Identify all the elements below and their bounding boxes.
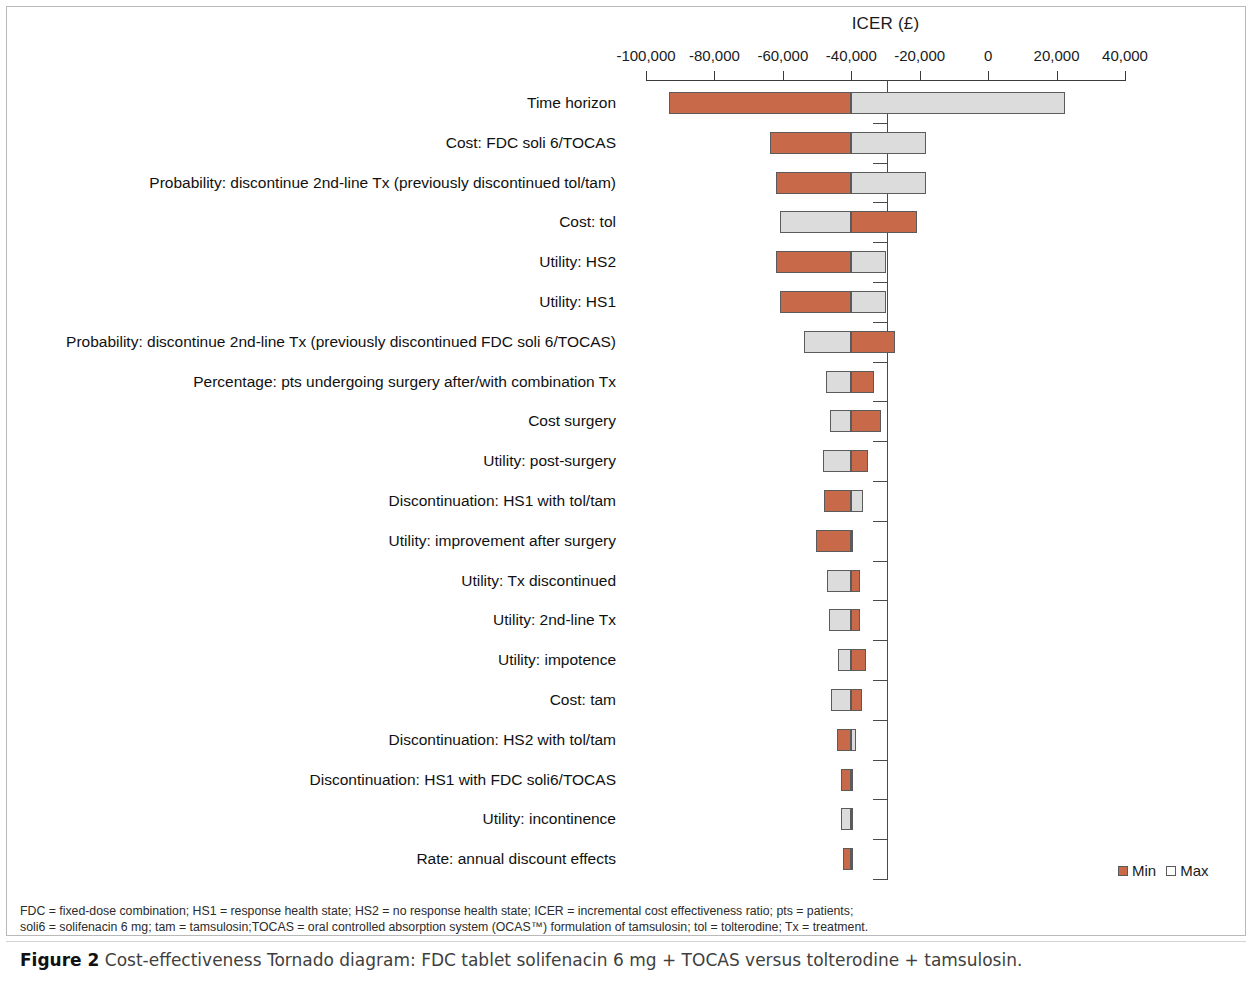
tornado-row: Cost: tol <box>0 202 1252 242</box>
legend-swatch-min-icon <box>1118 866 1128 876</box>
tornado-bar-max <box>826 371 852 393</box>
tornado-chart: ICER (£) -100,000-80,000-60,000-40,000-2… <box>0 0 1252 900</box>
tornado-bar-max <box>851 848 853 870</box>
tornado-bar-max <box>838 649 851 671</box>
tornado-row-label: Utility: post-surgery <box>483 452 616 470</box>
tornado-row-label: Rate: annual discount effects <box>416 850 616 868</box>
x-tick-label: -20,000 <box>894 47 945 64</box>
figure-number: Figure 2 <box>20 950 99 970</box>
x-axis-tick-labels: -100,000-80,000-60,000-40,000-20,000020,… <box>0 47 1252 67</box>
tornado-bar-min <box>851 570 860 592</box>
x-tick-label: -60,000 <box>757 47 808 64</box>
tornado-bar-min <box>851 410 881 432</box>
tornado-row-label: Utility: improvement after surgery <box>389 532 616 550</box>
tornado-bar-min <box>776 172 852 194</box>
tornado-row-label: Discontinuation: HS1 with tol/tam <box>389 492 616 510</box>
tornado-row: Utility: 2nd-line Tx <box>0 600 1252 640</box>
tornado-bar-min <box>851 450 867 472</box>
legend-item-max: Max <box>1166 862 1208 879</box>
tornado-row: Cost: tam <box>0 680 1252 720</box>
tornado-bar-min <box>776 251 851 273</box>
tornado-row-label: Discontinuation: HS2 with tol/tam <box>389 731 616 749</box>
tornado-row-label: Cost surgery <box>528 412 616 430</box>
x-tick-label: 20,000 <box>1034 47 1080 64</box>
tornado-row: Discontinuation: HS1 with tol/tam <box>0 481 1252 521</box>
tornado-row: Probability: discontinue 2nd-line Tx (pr… <box>0 322 1252 362</box>
tornado-row: Discontinuation: HS1 with FDC soli6/TOCA… <box>0 760 1252 800</box>
tornado-bar-max <box>780 211 852 233</box>
figure-root: ICER (£) -100,000-80,000-60,000-40,000-2… <box>0 0 1252 987</box>
tornado-bar-min <box>837 729 852 751</box>
tornado-bar-max <box>851 291 886 313</box>
tornado-bar-max <box>851 490 863 512</box>
x-tick-mark <box>920 71 921 81</box>
tornado-row: Probability: discontinue 2nd-line Tx (pr… <box>0 163 1252 203</box>
tornado-row-label: Utility: Tx discontinued <box>461 572 616 590</box>
tornado-bar-max <box>851 132 926 154</box>
x-tick-mark <box>646 71 647 81</box>
tornado-row-label: Probability: discontinue 2nd-line Tx (pr… <box>149 174 616 192</box>
legend-label-max: Max <box>1180 862 1208 879</box>
x-axis-line <box>646 80 1125 81</box>
tornado-bar-max <box>851 729 855 751</box>
tornado-bar-min <box>669 92 851 114</box>
chart-legend: Min Max <box>1118 862 1209 879</box>
x-tick-mark <box>1057 71 1058 81</box>
tornado-bar-max <box>804 331 851 353</box>
tornado-bar-min <box>851 331 895 353</box>
tornado-bar-max <box>831 689 851 711</box>
tornado-row-label: Time horizon <box>527 94 616 112</box>
tornado-bar-min <box>780 291 852 313</box>
tornado-row: Utility: HS2 <box>0 242 1252 282</box>
tornado-bar-min <box>851 211 916 233</box>
tornado-row-label: Utility: impotence <box>498 651 616 669</box>
tornado-row-label: Cost: FDC soli 6/TOCAS <box>446 134 616 152</box>
tornado-row-label: Discontinuation: HS1 with FDC soli6/TOCA… <box>310 771 616 789</box>
tornado-bar-min <box>770 132 851 154</box>
figure-caption: Figure 2 Cost-effectiveness Tornado diag… <box>20 950 1230 970</box>
tornado-row-label: Utility: 2nd-line Tx <box>493 611 616 629</box>
tornado-row: Cost: FDC soli 6/TOCAS <box>0 123 1252 163</box>
figure-caption-text: Cost-effectiveness Tornado diagram: FDC … <box>105 950 1023 970</box>
x-tick-mark <box>851 71 852 81</box>
tornado-bar-max <box>851 172 926 194</box>
tornado-bar-min <box>816 530 851 552</box>
tornado-bar-min <box>851 609 860 631</box>
tornado-bar-max <box>841 808 851 830</box>
tornado-row: Time horizon <box>0 83 1252 123</box>
tornado-row: Utility: post-surgery <box>0 441 1252 481</box>
footnote-line-2: soli6 = solifenacin 6 mg; tam = tamsulos… <box>20 919 1230 935</box>
x-tick-label: -40,000 <box>826 47 877 64</box>
tornado-row-label: Cost: tam <box>550 691 616 709</box>
tornado-row-label: Utility: HS2 <box>539 253 616 271</box>
caption-divider <box>6 941 1246 942</box>
x-tick-label: 0 <box>984 47 992 64</box>
tornado-bar-max <box>851 530 853 552</box>
tornado-bar-max <box>829 609 851 631</box>
tornado-bar-max <box>830 410 852 432</box>
tornado-bar-max <box>851 251 886 273</box>
tornado-bar-min <box>843 848 851 870</box>
tornado-bar-max <box>851 92 1064 114</box>
x-tick-mark <box>988 71 989 81</box>
tornado-bar-min <box>851 808 853 830</box>
tornado-row-label: Utility: incontinence <box>482 810 616 828</box>
tornado-row: Utility: impotence <box>0 640 1252 680</box>
tornado-bar-max <box>823 450 851 472</box>
x-tick-label: -100,000 <box>616 47 675 64</box>
tornado-bar-max <box>851 769 853 791</box>
tornado-bar-min <box>824 490 852 512</box>
x-tick-mark <box>714 71 715 81</box>
tornado-row: Rate: annual discount effects <box>0 839 1252 879</box>
legend-item-min: Min <box>1118 862 1156 879</box>
tornado-row-label: Utility: HS1 <box>539 293 616 311</box>
legend-label-min: Min <box>1132 862 1156 879</box>
tornado-row: Utility: HS1 <box>0 282 1252 322</box>
tornado-row-label: Probability: discontinue 2nd-line Tx (pr… <box>66 333 616 351</box>
x-tick-label: 40,000 <box>1102 47 1148 64</box>
legend-swatch-max-icon <box>1166 866 1176 876</box>
tornado-row: Utility: incontinence <box>0 799 1252 839</box>
tornado-row-label: Percentage: pts undergoing surgery after… <box>193 373 616 391</box>
tornado-bar-max <box>827 570 851 592</box>
x-tick-mark <box>1125 71 1126 81</box>
